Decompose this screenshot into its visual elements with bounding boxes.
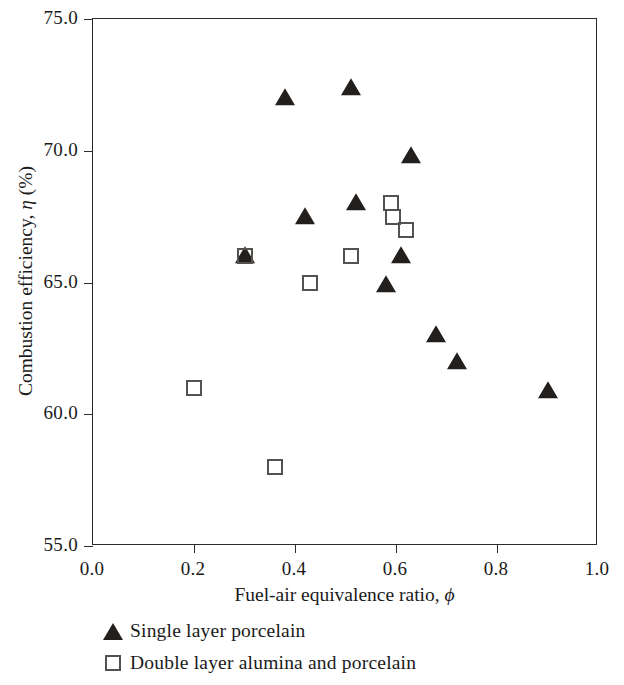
- y-axis-title: Combustion efficiency, η (%): [15, 16, 37, 546]
- scatter-chart-figure: 55.060.065.070.075.0 0.00.20.40.60.81.0 …: [0, 0, 624, 685]
- data-point-triangle: [275, 88, 295, 105]
- filled-triangle-icon: [96, 623, 130, 640]
- legend-item-label: Single layer porcelain: [130, 620, 306, 642]
- y-tick: [84, 151, 93, 152]
- y-tick: [84, 546, 93, 547]
- legend-item: Single layer porcelain: [96, 615, 616, 647]
- y-tick: [84, 414, 93, 415]
- data-point-square: [302, 275, 318, 291]
- x-tick-label: 0.2: [158, 559, 228, 578]
- data-point-triangle: [391, 246, 411, 263]
- data-point-square: [237, 248, 253, 264]
- y-axis-symbol: η: [15, 200, 36, 210]
- data-point-triangle: [346, 194, 366, 211]
- open-square-icon: [96, 655, 130, 671]
- data-point-square: [186, 380, 202, 396]
- legend-item: Double layer alumina and porcelain: [96, 647, 616, 679]
- chart-legend: Single layer porcelainDouble layer alumi…: [96, 615, 616, 679]
- y-tick: [84, 19, 93, 20]
- x-tick: [497, 544, 498, 553]
- legend-item-label: Double layer alumina and porcelain: [130, 652, 416, 674]
- data-point-triangle: [295, 207, 315, 224]
- x-tick-label: 0.4: [259, 559, 329, 578]
- plot-area: [92, 18, 597, 545]
- data-point-triangle: [538, 381, 558, 398]
- x-tick-label: 0.0: [57, 559, 127, 578]
- x-axis-symbol: ϕ: [444, 584, 454, 605]
- data-point-triangle: [447, 352, 467, 369]
- data-point-square: [398, 222, 414, 238]
- data-point-square: [267, 459, 283, 475]
- x-tick: [295, 544, 296, 553]
- x-tick-label: 0.8: [461, 559, 531, 578]
- x-tick: [194, 544, 195, 553]
- x-tick: [396, 544, 397, 553]
- data-point-triangle: [426, 325, 446, 342]
- y-tick: [84, 283, 93, 284]
- x-axis-title: Fuel-air equivalence ratio, ϕ: [92, 584, 597, 606]
- data-point-triangle: [341, 78, 361, 95]
- data-point-triangle: [401, 146, 421, 163]
- legend-marker-glyph: [105, 655, 121, 671]
- data-point-square: [343, 248, 359, 264]
- legend-marker-glyph: [103, 623, 123, 640]
- data-point-triangle: [376, 275, 396, 292]
- x-tick-label: 1.0: [562, 559, 624, 578]
- x-tick-label: 0.6: [360, 559, 430, 578]
